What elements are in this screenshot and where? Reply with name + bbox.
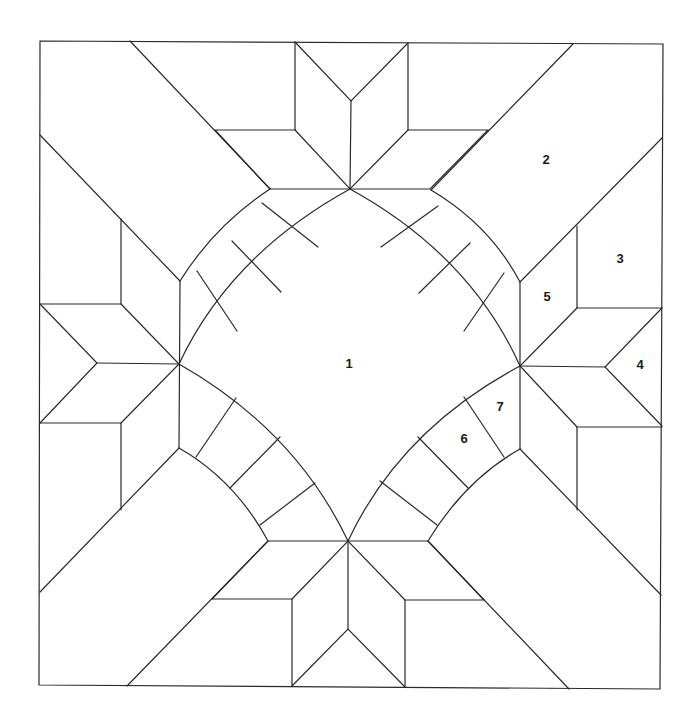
label-piece-4: 4 bbox=[636, 357, 644, 372]
quilt-diagram: 1 2 3 4 5 6 7 bbox=[0, 0, 697, 725]
label-piece-3: 3 bbox=[616, 251, 623, 266]
label-piece-5: 5 bbox=[543, 289, 550, 304]
arc-band-bottom-right bbox=[348, 366, 520, 541]
label-piece-6: 6 bbox=[460, 431, 467, 446]
bottom-star bbox=[212, 541, 484, 687]
label-piece-1: 1 bbox=[345, 356, 352, 371]
top-star bbox=[215, 42, 488, 189]
left-star bbox=[40, 219, 180, 510]
arc-band-bottom-left bbox=[179, 364, 348, 541]
arc-band-top-left bbox=[179, 189, 350, 364]
label-piece-2: 2 bbox=[542, 152, 549, 167]
arc-band-top-right bbox=[350, 189, 520, 366]
label-piece-7: 7 bbox=[496, 399, 503, 414]
piece-labels: 1 2 3 4 5 6 7 bbox=[345, 152, 644, 446]
